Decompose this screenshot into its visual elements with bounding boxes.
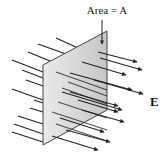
diagram-canvas (0, 0, 167, 154)
electric-flux-diagram: Area = A E (0, 0, 167, 154)
area-label: Area = A (80, 4, 134, 16)
area-plane (43, 31, 107, 145)
electric-field-label: E (150, 94, 159, 110)
